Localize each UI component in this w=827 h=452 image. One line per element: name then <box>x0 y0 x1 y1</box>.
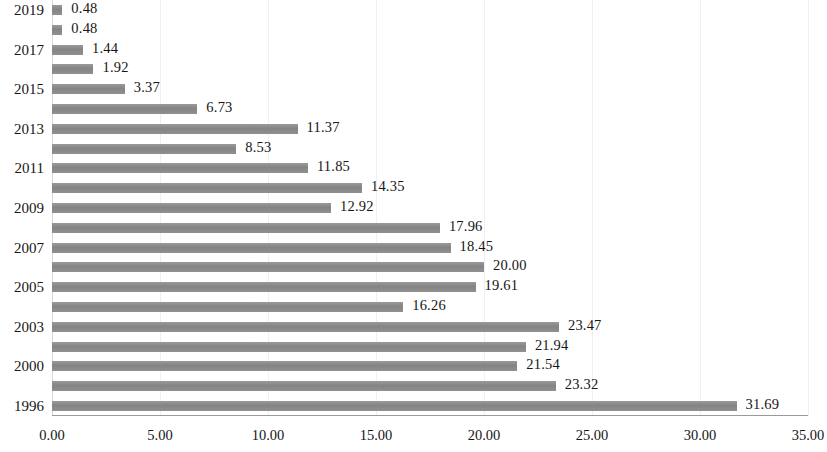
bar-value-label: 11.85 <box>317 157 350 175</box>
bar[interactable] <box>52 5 62 15</box>
x-tick-label: 20.00 <box>468 424 501 446</box>
x-tick-label: 10.00 <box>252 424 285 446</box>
bar-row: 19.61 <box>52 278 808 296</box>
category-label: 2009 <box>0 199 44 217</box>
bar-row: 1.44 <box>52 41 808 59</box>
bar-value-label: 20.00 <box>493 256 527 274</box>
bar[interactable] <box>52 45 83 55</box>
bar-value-label: 31.69 <box>746 395 780 413</box>
bar[interactable] <box>52 144 236 154</box>
x-tick-label: 0.00 <box>39 424 64 446</box>
bar-value-label: 11.37 <box>307 118 340 136</box>
bar-value-label: 23.32 <box>565 375 599 393</box>
bar-value-label: 19.61 <box>485 276 519 294</box>
category-label: 2007 <box>0 239 44 257</box>
category-label: 2005 <box>0 278 44 296</box>
bar-value-label: 16.26 <box>412 296 446 314</box>
x-tick-label: 15.00 <box>360 424 393 446</box>
bar[interactable] <box>52 223 440 233</box>
bar[interactable] <box>52 25 62 35</box>
bar-row: 14.35 <box>52 179 808 197</box>
bar[interactable] <box>52 282 476 292</box>
bar-row: 0.48 <box>52 21 808 39</box>
x-axis-line <box>52 415 808 416</box>
bar-value-label: 21.54 <box>526 355 560 373</box>
bar-row: 17.96 <box>52 219 808 237</box>
bar[interactable] <box>52 104 197 114</box>
bar[interactable] <box>52 262 484 272</box>
bar-value-label: 0.48 <box>71 19 97 37</box>
bar-row: 11.37 <box>52 120 808 138</box>
category-label: 2019 <box>0 1 44 19</box>
bar-value-label: 23.47 <box>568 316 602 334</box>
bar-row: 21.54 <box>52 357 808 375</box>
bar[interactable] <box>52 381 556 391</box>
category-label: 2000 <box>0 357 44 375</box>
bar[interactable] <box>52 84 125 94</box>
x-tick-label: 5.00 <box>147 424 172 446</box>
x-tick-label: 30.00 <box>684 424 717 446</box>
bar-value-label: 8.53 <box>245 138 271 156</box>
gridline <box>808 0 809 416</box>
bar-row: 0.48 <box>52 1 808 19</box>
bar-row: 20.00 <box>52 258 808 276</box>
bar[interactable] <box>52 243 451 253</box>
bar[interactable] <box>52 163 308 173</box>
bar-value-label: 3.37 <box>134 78 160 96</box>
bar[interactable] <box>52 124 298 134</box>
bar-row: 18.45 <box>52 239 808 257</box>
plot-area: 0.480.481.441.923.376.7311.378.5311.8514… <box>52 0 808 416</box>
x-axis-tick-labels: 0.005.0010.0015.0020.0025.0030.0035.00 <box>0 424 827 452</box>
bar-row: 31.69 <box>52 397 808 415</box>
bar[interactable] <box>52 361 517 371</box>
horizontal-bar-chart: 0.480.481.441.923.376.7311.378.5311.8514… <box>0 0 827 452</box>
bar[interactable] <box>52 203 331 213</box>
bar-row: 11.85 <box>52 159 808 177</box>
bar-row: 23.32 <box>52 377 808 395</box>
category-label: 2003 <box>0 318 44 336</box>
bar-row: 3.37 <box>52 80 808 98</box>
bar[interactable] <box>52 64 93 74</box>
bar-value-label: 21.94 <box>535 336 569 354</box>
x-tick-label: 35.00 <box>792 424 825 446</box>
bar-value-label: 18.45 <box>460 237 494 255</box>
bar-value-label: 12.92 <box>340 197 374 215</box>
category-label: 2015 <box>0 80 44 98</box>
bar-value-label: 17.96 <box>449 217 483 235</box>
bar-row: 8.53 <box>52 140 808 158</box>
x-tick-label: 25.00 <box>576 424 609 446</box>
bar-value-label: 14.35 <box>371 177 405 195</box>
category-axis: 2019201720152013201120092007200520032000… <box>0 0 44 416</box>
bar[interactable] <box>52 183 362 193</box>
bar-value-label: 1.92 <box>102 58 128 76</box>
bar-row: 16.26 <box>52 298 808 316</box>
category-label: 2013 <box>0 120 44 138</box>
category-label: 2017 <box>0 41 44 59</box>
bar-value-label: 0.48 <box>71 0 97 17</box>
bar[interactable] <box>52 302 403 312</box>
bar[interactable] <box>52 322 559 332</box>
bar-value-label: 1.44 <box>92 39 118 57</box>
bar-value-label: 6.73 <box>206 98 232 116</box>
bar-row: 6.73 <box>52 100 808 118</box>
bar-row: 23.47 <box>52 318 808 336</box>
bar-row: 1.92 <box>52 60 808 78</box>
bar-row: 21.94 <box>52 338 808 356</box>
bar[interactable] <box>52 401 737 411</box>
category-label: 2011 <box>0 159 44 177</box>
bar[interactable] <box>52 342 526 352</box>
bar-row: 12.92 <box>52 199 808 217</box>
category-label: 1996 <box>0 397 44 415</box>
